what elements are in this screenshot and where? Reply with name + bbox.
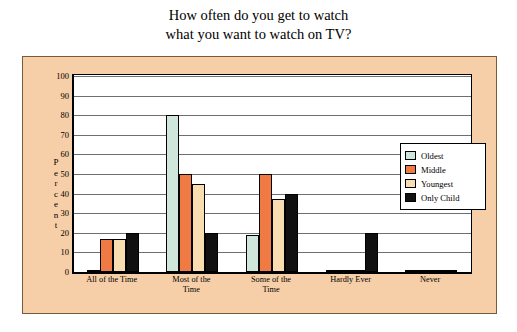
x-axis-tick-label-line: Some of the bbox=[231, 275, 311, 285]
legend-label: Youngest bbox=[421, 179, 453, 189]
bar bbox=[192, 184, 205, 272]
y-axis-tick-label: 0 bbox=[47, 267, 69, 277]
y-axis-tick-label: 90 bbox=[47, 91, 69, 101]
bar bbox=[285, 194, 298, 272]
y-axis-tick-label: 20 bbox=[47, 228, 69, 238]
y-axis-tick-label: 10 bbox=[47, 247, 69, 257]
x-axis-tick-label-line: All of the Time bbox=[72, 275, 152, 285]
x-axis-tick-label: All of the Time bbox=[72, 275, 152, 285]
bar bbox=[259, 174, 272, 272]
y-axis-tick-label: 60 bbox=[47, 149, 69, 159]
bar bbox=[126, 233, 139, 272]
legend-item: Youngest bbox=[405, 177, 481, 190]
legend-swatch bbox=[405, 151, 416, 160]
bar-group bbox=[73, 75, 153, 272]
legend-item: Only Child bbox=[405, 191, 481, 204]
legend-label: Oldest bbox=[421, 151, 443, 161]
y-axis-tick-label: 80 bbox=[47, 110, 69, 120]
bar bbox=[272, 199, 285, 272]
y-axis-line bbox=[73, 75, 74, 273]
legend-swatch bbox=[405, 165, 416, 174]
y-axis-tick-label: 30 bbox=[47, 208, 69, 218]
chart-panel: P e r c e n t 0102030405060708090100 All… bbox=[22, 56, 497, 314]
bar-group bbox=[153, 75, 233, 272]
bar-group bbox=[232, 75, 312, 272]
bar bbox=[113, 239, 126, 272]
legend: OldestMiddleYoungestOnly Child bbox=[400, 143, 486, 210]
bar bbox=[179, 174, 192, 272]
y-axis-tick-label: 40 bbox=[47, 189, 69, 199]
x-axis-line bbox=[73, 272, 471, 273]
x-axis-tick-label: Never bbox=[390, 275, 470, 285]
bar-group bbox=[312, 75, 392, 272]
chart-title-line-1: How often do you get to watch bbox=[0, 6, 517, 25]
legend-label: Only Child bbox=[421, 193, 459, 203]
x-axis-tick-label: Most of theTime bbox=[152, 275, 232, 294]
chart-title-line-2: what you want to watch on TV? bbox=[0, 25, 517, 44]
bar bbox=[166, 115, 179, 272]
legend-swatch bbox=[405, 179, 416, 188]
bar bbox=[100, 239, 113, 272]
bar bbox=[246, 235, 259, 272]
chart-screenshot: How often do you get to watch what you w… bbox=[0, 0, 517, 332]
x-axis-tick-label-line: Most of the bbox=[152, 275, 232, 285]
x-axis-tick-label-line: Time bbox=[152, 285, 232, 295]
x-axis-tick-label: Some of theTime bbox=[231, 275, 311, 294]
y-axis-tick-label: 100 bbox=[47, 71, 69, 81]
x-axis-tick-label-line: Never bbox=[390, 275, 470, 285]
legend-label: Middle bbox=[421, 165, 446, 175]
legend-item: Oldest bbox=[405, 149, 481, 162]
y-axis-tick-label: 50 bbox=[47, 169, 69, 179]
x-axis-tick-labels: All of the TimeMost of theTimeSome of th… bbox=[72, 275, 470, 305]
bar bbox=[365, 233, 378, 272]
x-axis-tick-label-line: Time bbox=[231, 285, 311, 295]
x-axis-tick-label: Hardly Ever bbox=[311, 275, 391, 285]
x-axis-tick-label-line: Hardly Ever bbox=[311, 275, 391, 285]
y-axis-tick-label: 70 bbox=[47, 130, 69, 140]
legend-item: Middle bbox=[405, 163, 481, 176]
bar bbox=[205, 233, 218, 272]
legend-swatch bbox=[405, 193, 416, 202]
chart-title: How often do you get to watch what you w… bbox=[0, 6, 517, 44]
y-axis-tick-labels: 0102030405060708090100 bbox=[45, 74, 69, 272]
